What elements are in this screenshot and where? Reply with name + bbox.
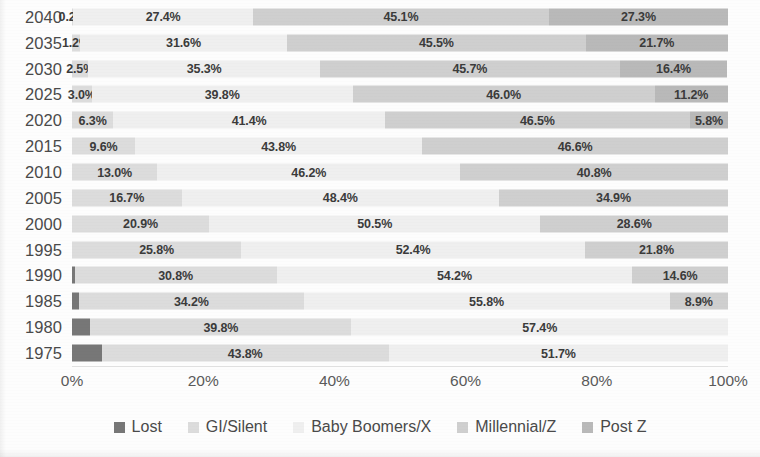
- chart-legend: LostGI/SilentBaby Boomers/XMillennial/ZP…: [0, 410, 760, 444]
- bar-row: 198534.2%55.8%8.9%: [0, 288, 760, 314]
- legend-label: Lost: [132, 418, 162, 436]
- bar-segment-millennial-z: [253, 8, 549, 25]
- y-tick-label-2010: 2010: [8, 163, 62, 182]
- y-tick-label-2025: 2025: [8, 85, 62, 104]
- bar-segment-baby-boomers-x: [351, 319, 728, 336]
- bar-row: 20159.6%43.8%46.6%: [0, 133, 760, 159]
- bar-segment-baby-boomers-x: [113, 112, 385, 129]
- y-tick-label-1995: 1995: [8, 240, 62, 259]
- bar-segment-gi-silent: [102, 345, 389, 362]
- bar-segment-lost: [72, 319, 90, 336]
- bar-track: 3.0%39.8%46.0%11.2%: [72, 86, 728, 103]
- bar-segment-millennial-z: [670, 293, 728, 310]
- bar-segment-baby-boomers-x: [80, 34, 287, 51]
- bar-segment-gi-silent: [75, 267, 277, 284]
- y-tick-label-2015: 2015: [8, 137, 62, 156]
- bar-row: 199525.8%52.4%21.8%: [0, 237, 760, 263]
- x-tick-label: 40%: [319, 372, 350, 390]
- bar-track: 30.8%54.2%14.6%: [72, 267, 728, 284]
- legend-swatch-icon: [293, 422, 304, 433]
- legend-label: Millennial/Z: [475, 418, 556, 436]
- y-tick-label-2000: 2000: [8, 214, 62, 233]
- bar-segment-baby-boomers-x: [157, 164, 460, 181]
- bar-row: 198039.8%57.4%: [0, 314, 760, 340]
- bar-segment-millennial-z: [540, 215, 728, 232]
- bar-segment-millennial-z: [385, 112, 690, 129]
- legend-label: Baby Boomers/X: [311, 418, 431, 436]
- bar-segment-millennial-z: [632, 267, 728, 284]
- bar-track: 1.2%31.6%45.5%21.7%: [72, 34, 728, 51]
- bar-track: 20.9%50.5%28.6%: [72, 215, 728, 232]
- bar-row: 201013.0%46.2%40.8%: [0, 159, 760, 185]
- bar-segment-baby-boomers-x: [277, 267, 633, 284]
- stacked-bar-chart: 20400.2%27.4%45.1%27.3%20351.2%31.6%45.5…: [0, 0, 760, 457]
- bar-segment-post-z: [620, 60, 728, 77]
- legend-swatch-icon: [457, 422, 468, 433]
- bar-segment-millennial-z: [353, 86, 655, 103]
- bar-row: 20302.5%35.3%45.7%16.4%: [0, 56, 760, 82]
- bar-track: 2.5%35.3%45.7%16.4%: [72, 60, 728, 77]
- bar-segment-baby-boomers-x: [389, 345, 728, 362]
- x-tick-label: 20%: [188, 372, 219, 390]
- legend-item-gi-silent[interactable]: GI/Silent: [188, 418, 267, 436]
- y-tick-label-2005: 2005: [8, 188, 62, 207]
- y-tick-label-1985: 1985: [8, 292, 62, 311]
- legend-item-post-z[interactable]: Post Z: [582, 418, 646, 436]
- y-tick-label-2035: 2035: [8, 33, 62, 52]
- bar-segment-millennial-z: [422, 138, 728, 155]
- bar-segment-post-z: [655, 86, 728, 103]
- bar-track: 13.0%46.2%40.8%: [72, 164, 728, 181]
- y-tick-label-1975: 1975: [8, 344, 62, 363]
- legend-label: GI/Silent: [206, 418, 267, 436]
- bar-row: 199030.8%54.2%14.6%: [0, 263, 760, 289]
- bar-segment-lost: [72, 293, 79, 310]
- bar-segment-baby-boomers-x: [209, 215, 540, 232]
- bar-segment-baby-boomers-x: [88, 60, 320, 77]
- bar-track: 39.8%57.4%: [72, 319, 728, 336]
- bar-segment-gi-silent: [90, 319, 351, 336]
- legend-swatch-icon: [582, 422, 593, 433]
- legend-item-millennial-z[interactable]: Millennial/Z: [457, 418, 556, 436]
- bar-segment-post-z: [549, 8, 728, 25]
- bar-track: 16.7%48.4%34.9%: [72, 189, 728, 206]
- bar-row: 197543.8%51.7%: [0, 340, 760, 366]
- bar-row: 200020.9%50.5%28.6%: [0, 211, 760, 237]
- y-tick-label-2040: 2040: [8, 7, 62, 26]
- y-tick-label-1980: 1980: [8, 318, 62, 337]
- bar-segment-post-z: [586, 34, 728, 51]
- legend-swatch-icon: [114, 422, 125, 433]
- legend-swatch-icon: [188, 422, 199, 433]
- bar-segment-gi-silent: [79, 293, 303, 310]
- bar-segment-gi-silent: [72, 189, 182, 206]
- bar-segment-millennial-z: [585, 241, 728, 258]
- bar-row: 200516.7%48.4%34.9%: [0, 185, 760, 211]
- bar-segment-gi-silent: [72, 60, 88, 77]
- bar-track: 34.2%55.8%8.9%: [72, 293, 728, 310]
- bar-segment-gi-silent: [72, 164, 157, 181]
- plot-area: 20400.2%27.4%45.1%27.3%20351.2%31.6%45.5…: [0, 4, 760, 366]
- bar-segment-gi-silent: [72, 138, 135, 155]
- y-tick-label-1990: 1990: [8, 266, 62, 285]
- bar-track: 43.8%51.7%: [72, 345, 728, 362]
- y-tick-label-2020: 2020: [8, 111, 62, 130]
- bar-segment-baby-boomers-x: [304, 293, 670, 310]
- x-tick-label: 100%: [708, 372, 748, 390]
- legend-label: Post Z: [600, 418, 646, 436]
- bar-segment-baby-boomers-x: [135, 138, 422, 155]
- bar-segment-millennial-z: [460, 164, 728, 181]
- bar-segment-baby-boomers-x: [241, 241, 585, 258]
- bar-segment-gi-silent: [72, 34, 80, 51]
- bar-segment-baby-boomers-x: [73, 8, 253, 25]
- x-axis-line: [72, 366, 728, 367]
- bar-segment-millennial-z: [287, 34, 585, 51]
- bar-segment-baby-boomers-x: [182, 189, 500, 206]
- legend-item-lost[interactable]: Lost: [114, 418, 162, 436]
- x-axis: 0%20%40%60%80%100%: [72, 368, 728, 398]
- x-tick-label: 80%: [581, 372, 612, 390]
- bar-segment-post-z: [690, 112, 728, 129]
- bar-row: 20206.3%41.4%46.5%5.8%: [0, 107, 760, 133]
- x-tick-label: 60%: [450, 372, 481, 390]
- bar-segment-lost: [72, 345, 102, 362]
- legend-item-baby-boomers-x[interactable]: Baby Boomers/X: [293, 418, 431, 436]
- bar-segment-millennial-z: [320, 60, 620, 77]
